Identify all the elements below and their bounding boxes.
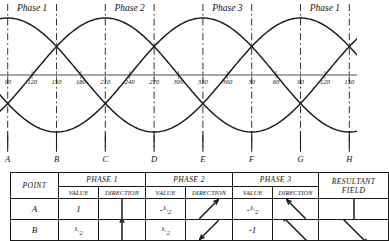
row-a-p3-value: -1/2 <box>233 199 273 220</box>
row-b-resultant-direction <box>319 220 389 241</box>
point-label-A: A <box>4 154 11 164</box>
row-a-point: A <box>11 199 59 220</box>
x-tick-label: 150 <box>52 78 63 85</box>
waveform-chart: 9012015018021024027030033036030609012015… <box>0 0 357 168</box>
header-p1-direction: DIRECTION <box>99 187 146 199</box>
x-tick-label: 60 <box>273 78 280 85</box>
header-p2-direction: DIRECTION <box>186 187 233 199</box>
x-tick-label: 90 <box>297 78 304 85</box>
point-label-D: D <box>150 154 158 164</box>
row-b-p1-value: 1/2 <box>59 220 99 241</box>
x-tick-label: 150 <box>344 78 355 85</box>
x-tick-label: 360 <box>221 78 233 85</box>
header-phase-2: PHASE 2 <box>146 173 233 187</box>
point-labels: ABCDEFGH <box>4 154 353 164</box>
point-label-F: F <box>248 154 255 164</box>
x-tick-label: 300 <box>173 78 185 85</box>
x-tick-label: 120 <box>27 78 38 85</box>
row-a-resultant-direction <box>319 199 389 220</box>
point-stems <box>8 132 350 150</box>
x-tick-label: 240 <box>125 78 136 85</box>
row-a-p1-value: 1 <box>59 199 99 220</box>
x-tick-label: 90 <box>4 78 11 85</box>
row-b-p3-direction <box>273 220 319 241</box>
x-tick-labels: 9012015018021024027030033036030609012015… <box>4 78 355 85</box>
row-a-p2-value: -1/2 <box>146 199 186 220</box>
phase-sector-label: Phase 1 <box>309 3 340 13</box>
x-tick-label: 30 <box>247 78 255 85</box>
header-point: POINT <box>11 173 59 199</box>
row-b-p2-direction <box>186 220 233 241</box>
phase-value-table: POINT PHASE 1 PHASE 2 PHASE 3 RESULTANT … <box>10 172 348 236</box>
x-tick-label: 120 <box>320 78 331 85</box>
row-a-p2-direction <box>186 199 233 220</box>
table-row: A 1 -1/2 -1/2 <box>11 199 389 220</box>
phase-sector-label: Phase 2 <box>114 3 146 13</box>
row-b-p2-value: 1/2 <box>146 220 186 241</box>
row-b-point: B <box>11 220 59 241</box>
point-label-E: E <box>199 154 206 164</box>
row-a-p3-direction <box>273 199 319 220</box>
table-row: B 1/2 1/2 -1 <box>11 220 389 241</box>
x-tick-label: 330 <box>197 78 209 85</box>
phase-sector-labels: Phase 1Phase 2Phase 3Phase 1 <box>16 3 340 13</box>
row-b-p3-value: -1 <box>233 220 273 241</box>
header-p3-direction: DIRECTION <box>273 187 319 199</box>
phase-sector-label: Phase 1 <box>16 3 47 13</box>
x-tick-label: 180 <box>76 78 87 85</box>
row-b-p1-direction <box>99 220 146 241</box>
header-resultant-field: RESULTANT FIELD <box>319 173 389 199</box>
point-label-B: B <box>54 154 59 164</box>
header-p3-value: VALUE <box>233 187 273 199</box>
point-label-C: C <box>102 154 108 164</box>
header-p2-value: VALUE <box>146 187 186 199</box>
header-phase-1: PHASE 1 <box>59 173 146 187</box>
table-header-row-main: POINT PHASE 1 PHASE 2 PHASE 3 RESULTANT … <box>11 173 389 187</box>
x-tick-label: 210 <box>100 78 111 85</box>
header-phase-3: PHASE 3 <box>233 173 319 187</box>
point-label-H: H <box>345 154 353 164</box>
x-tick-label: 270 <box>149 78 160 85</box>
row-a-p1-direction <box>99 199 146 220</box>
phase-sector-label: Phase 3 <box>211 3 243 13</box>
header-p1-value: VALUE <box>59 187 99 199</box>
point-label-G: G <box>297 154 303 164</box>
